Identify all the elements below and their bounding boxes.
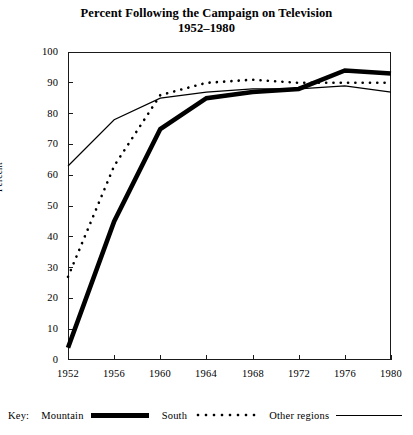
chart-title-block: Percent Following the Campaign on Televi… (0, 6, 413, 36)
y-tick-label-0: 0 (18, 355, 58, 365)
x-tick-mark-1964 (206, 355, 207, 360)
y-tick-label-90: 90 (18, 78, 58, 88)
legend-entry-south: South (162, 410, 270, 421)
chart-subtitle: 1952–1980 (0, 21, 413, 36)
legend-label-south: South (162, 410, 188, 421)
chart-legend: Key: Mountain South Other regions (8, 405, 408, 425)
legend-key-word: Key: (8, 410, 29, 421)
x-tick-label-1980: 1980 (365, 368, 413, 379)
x-tick-mark-1960 (160, 355, 161, 360)
chart-title: Percent Following the Campaign on Televi… (0, 6, 413, 21)
y-tick-label-20: 20 (18, 293, 58, 303)
x-tick-label-1952: 1952 (42, 368, 94, 379)
x-tick-label-1956: 1956 (88, 368, 140, 379)
y-tick-mark-50 (68, 206, 73, 207)
x-tick-label-1976: 1976 (319, 368, 371, 379)
y-tick-mark-30 (68, 267, 73, 268)
x-tick-mark-1980 (391, 355, 392, 360)
y-tick-mark-10 (68, 329, 73, 330)
y-tick-label-40: 40 (18, 232, 58, 242)
legend-entry-other-regions: Other regions (269, 410, 402, 421)
y-tick-mark-40 (68, 236, 73, 237)
x-tick-label-1960: 1960 (134, 368, 186, 379)
legend-label-mountain: Mountain (41, 410, 83, 421)
y-axis-label: Percent (0, 162, 4, 192)
legend-label-other-regions: Other regions (269, 410, 329, 421)
x-tick-mark-1952 (68, 355, 69, 360)
legend-entry-mountain: Mountain (41, 410, 161, 421)
x-tick-label-1968: 1968 (227, 368, 279, 379)
y-tick-label-60: 60 (18, 170, 58, 180)
y-tick-label-70: 70 (18, 139, 58, 149)
plot-area (68, 52, 391, 360)
dotted-line-swatch-icon (194, 413, 256, 417)
y-tick-mark-80 (68, 113, 73, 114)
x-tick-label-1972: 1972 (273, 368, 325, 379)
y-tick-label-100: 100 (18, 47, 58, 57)
y-tick-mark-70 (68, 144, 73, 145)
x-tick-label-1964: 1964 (180, 368, 232, 379)
thin-line-swatch-icon (336, 415, 402, 416)
x-tick-mark-1976 (345, 355, 346, 360)
y-tick-label-80: 80 (18, 109, 58, 119)
x-tick-mark-1972 (299, 355, 300, 360)
y-tick-label-50: 50 (18, 201, 58, 211)
y-tick-label-30: 30 (18, 263, 58, 273)
chart-figure: Percent Following the Campaign on Televi… (0, 0, 413, 435)
y-tick-mark-60 (68, 175, 73, 176)
x-tick-mark-1956 (114, 355, 115, 360)
x-tick-mark-1968 (253, 355, 254, 360)
y-tick-mark-90 (68, 82, 73, 83)
y-tick-label-10: 10 (18, 324, 58, 334)
thick-line-swatch-icon (91, 413, 149, 418)
y-tick-mark-20 (68, 298, 73, 299)
